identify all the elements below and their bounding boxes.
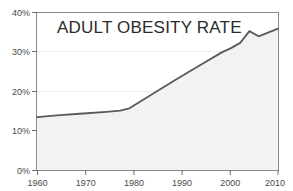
xtick-label-2000: 2000 bbox=[220, 178, 240, 188]
xtick-label-2010: 2010 bbox=[265, 178, 285, 188]
ytick-label-20: 20% bbox=[12, 87, 30, 97]
ytick-label-30: 30% bbox=[12, 47, 30, 57]
ytick-label-10: 10% bbox=[12, 126, 30, 136]
ytick-label-0: 0% bbox=[17, 166, 30, 176]
xtick-label-1960: 1960 bbox=[27, 178, 47, 188]
xtick-label-1990: 1990 bbox=[172, 178, 192, 188]
chart-title: ADULT OBESITY RATE bbox=[57, 18, 242, 37]
xtick-label-1980: 1980 bbox=[124, 178, 144, 188]
adult-obesity-rate-chart: 0% 10% 20% 30% 40% 1960 1970 1980 1990 2… bbox=[0, 0, 293, 191]
chart-container: 0% 10% 20% 30% 40% 1960 1970 1980 1990 2… bbox=[0, 0, 293, 191]
xtick-label-1970: 1970 bbox=[76, 178, 96, 188]
ytick-label-40: 40% bbox=[12, 8, 30, 18]
